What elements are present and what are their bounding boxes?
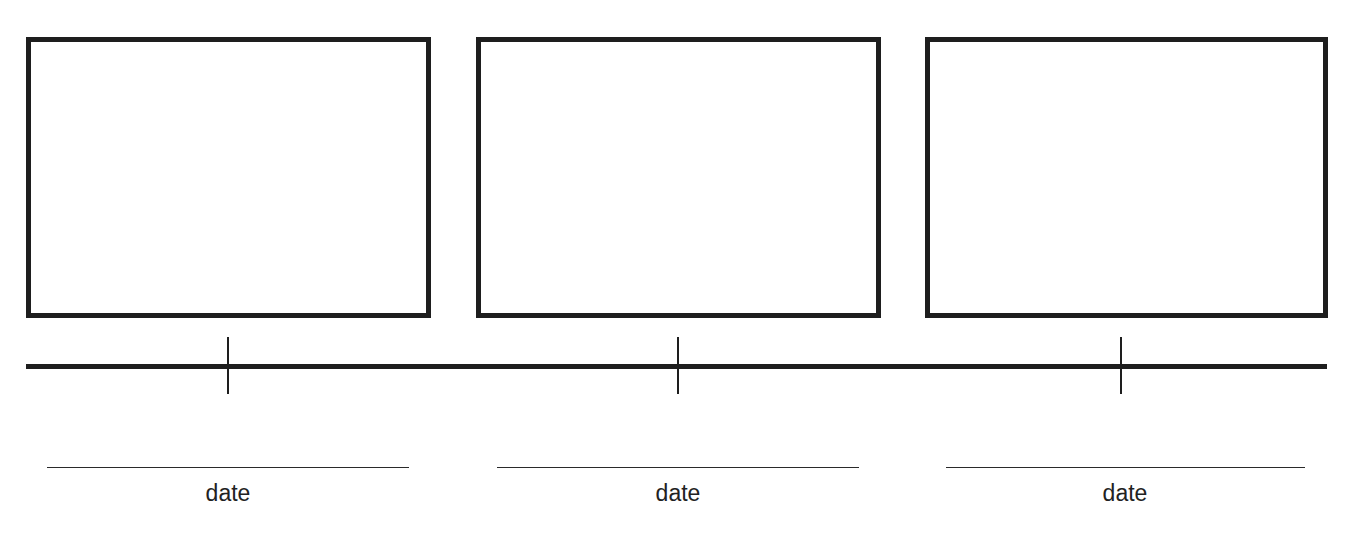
- picture-frame-1[interactable]: [26, 37, 431, 318]
- date-label-3: date: [1025, 478, 1225, 508]
- timeline-tick-3: [1120, 337, 1122, 394]
- date-label-1: date: [128, 478, 328, 508]
- date-field-3[interactable]: [946, 467, 1305, 468]
- date-label-2: date: [578, 478, 778, 508]
- date-field-1[interactable]: [47, 467, 409, 468]
- picture-frame-3[interactable]: [925, 37, 1328, 318]
- date-field-2[interactable]: [497, 467, 859, 468]
- timeline-tick-2: [677, 337, 679, 394]
- timeline-tick-1: [227, 337, 229, 394]
- picture-frame-2[interactable]: [476, 37, 881, 318]
